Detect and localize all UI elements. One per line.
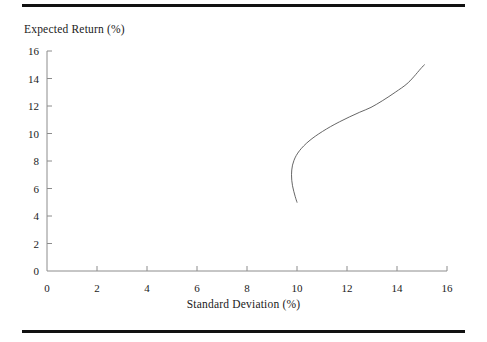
figure: Expected Return (%) Standard Deviation (… — [0, 0, 487, 342]
x-tick-label: 8 — [232, 282, 262, 294]
y-tick-label: 8 — [13, 155, 39, 167]
y-tick-label: 16 — [13, 45, 39, 57]
y-tick-label: 10 — [13, 128, 39, 140]
data-curves — [292, 65, 425, 203]
y-tick-label: 6 — [13, 183, 39, 195]
y-tick-label: 2 — [13, 238, 39, 250]
x-tick-label: 10 — [282, 282, 312, 294]
x-tick-label: 12 — [332, 282, 362, 294]
x-tick-label: 4 — [132, 282, 162, 294]
x-tick-label: 6 — [182, 282, 212, 294]
efficient-frontier-curve — [292, 65, 425, 203]
x-tick-label: 2 — [82, 282, 112, 294]
y-tick-label: 12 — [13, 100, 39, 112]
x-tick-label: 14 — [382, 282, 412, 294]
x-tick-label: 0 — [32, 282, 62, 294]
y-tick-label: 0 — [13, 265, 39, 277]
y-tick-label: 4 — [13, 210, 39, 222]
x-tick-label: 16 — [432, 282, 462, 294]
axis-lines — [47, 51, 447, 271]
y-tick-label: 14 — [13, 73, 39, 85]
tick-marks — [47, 51, 447, 271]
